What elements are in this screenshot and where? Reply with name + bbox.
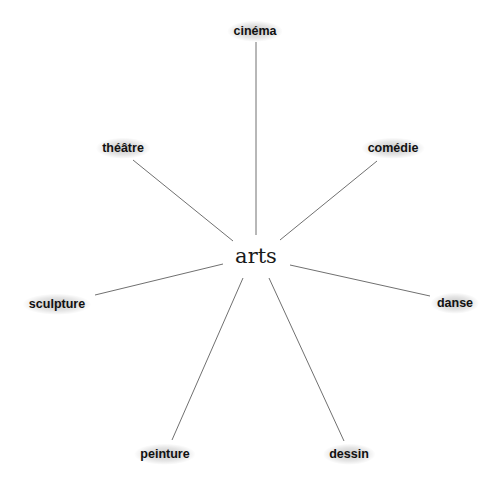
mind-map-canvas: arts cinéma comédie théâtre danse sculpt… — [0, 0, 498, 493]
link-dessin — [269, 278, 344, 441]
link-comedie — [280, 161, 377, 240]
node-theatre: théâtre — [96, 138, 150, 159]
node-cinema: cinéma — [227, 21, 282, 42]
central-topic: arts — [235, 246, 277, 267]
link-peinture — [172, 278, 243, 440]
link-theatre — [133, 160, 233, 241]
node-peinture: peinture — [134, 444, 195, 465]
node-comedie: comédie — [362, 138, 425, 159]
node-danse: danse — [431, 293, 479, 314]
node-dessin: dessin — [323, 444, 375, 465]
link-sculpture — [95, 264, 223, 295]
node-sculpture: sculpture — [23, 294, 91, 315]
link-danse — [290, 265, 430, 296]
